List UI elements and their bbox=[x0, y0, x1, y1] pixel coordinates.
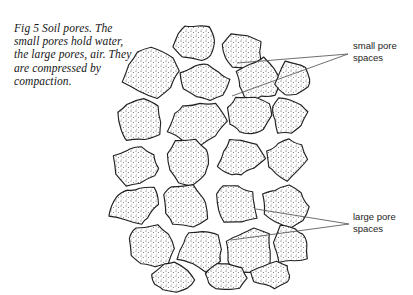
soil-particle bbox=[129, 225, 174, 267]
soil-particle bbox=[267, 139, 308, 181]
soil-particle bbox=[217, 140, 265, 175]
figure-page: Fig 5 Soil pores. The small pores hold w… bbox=[0, 0, 413, 295]
soil-particle bbox=[164, 185, 208, 227]
soil-particle bbox=[173, 26, 215, 61]
soil-particle bbox=[109, 187, 159, 224]
label-large-pore-spaces: large pore spaces bbox=[353, 211, 396, 234]
soil-particle bbox=[274, 225, 308, 262]
soil-particle bbox=[167, 103, 227, 145]
soil-particle bbox=[228, 97, 272, 133]
soil-particle bbox=[263, 185, 310, 228]
soil-particle bbox=[152, 262, 195, 292]
soil-particle bbox=[180, 64, 230, 100]
label-small-pore-spaces: small pore spaces bbox=[353, 40, 397, 63]
soil-particle bbox=[205, 264, 247, 290]
soil-particle bbox=[275, 61, 310, 95]
soil-particle bbox=[273, 98, 308, 133]
soil-particle bbox=[167, 139, 208, 186]
soil-particle bbox=[118, 99, 161, 141]
soil-particle bbox=[217, 186, 258, 222]
soil-particle bbox=[113, 147, 158, 186]
figure-caption: Fig 5 Soil pores. The small pores hold w… bbox=[14, 22, 140, 88]
